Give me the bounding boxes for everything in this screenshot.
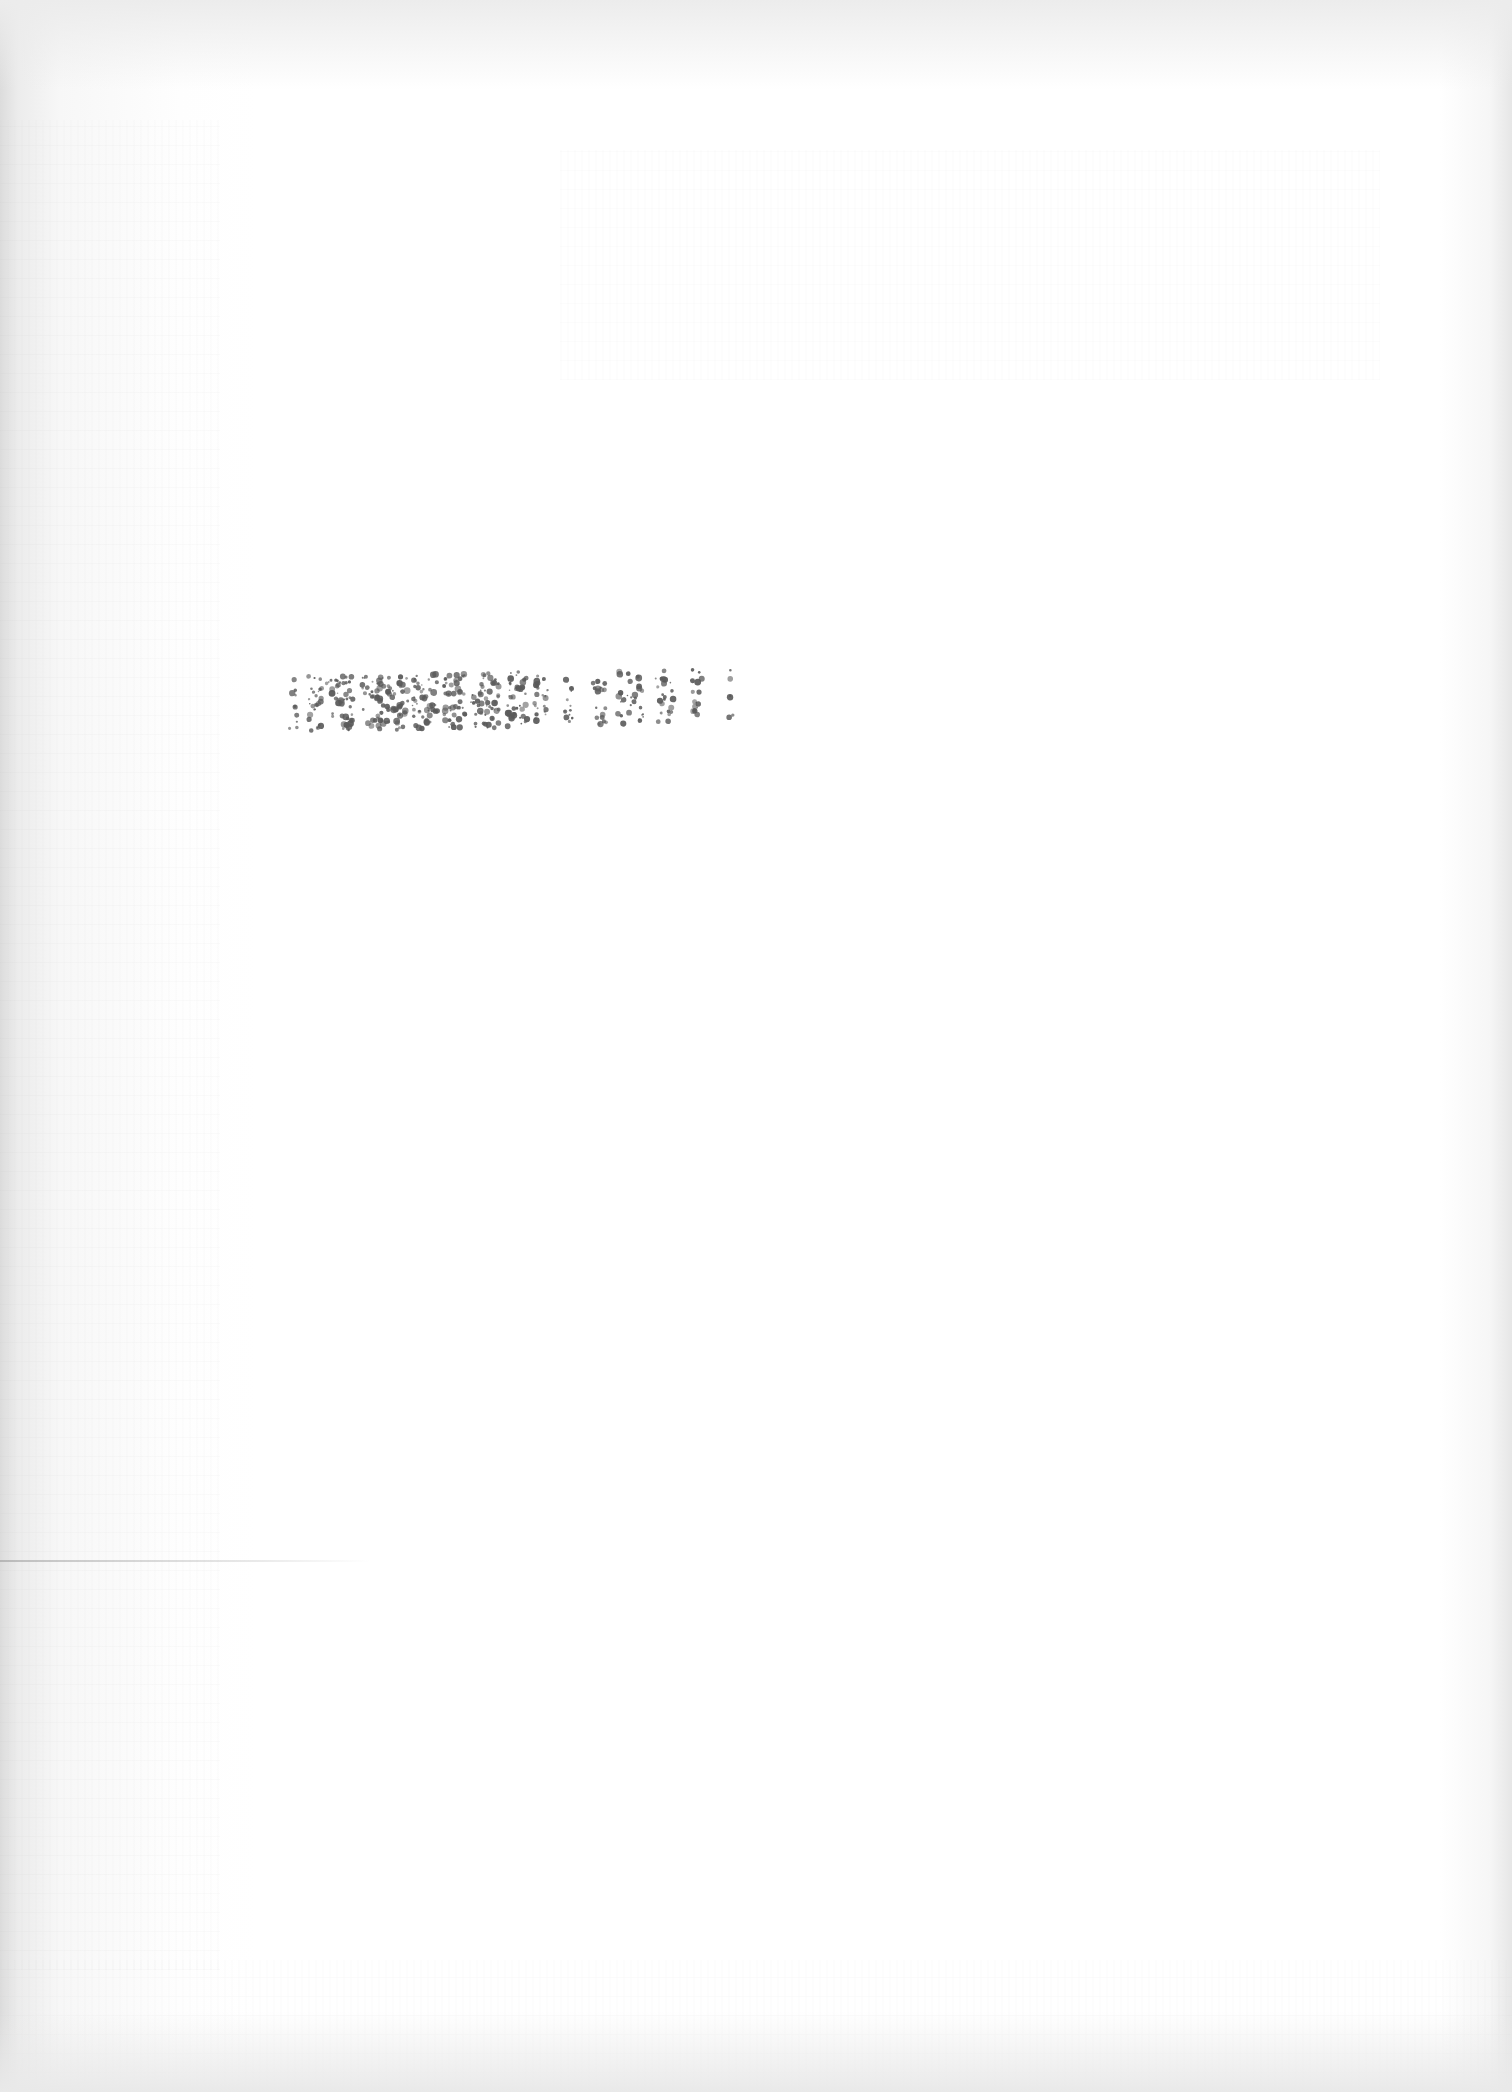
show-through-left-margin (0, 120, 220, 1970)
ink-stamp: [illegible stamp] (284, 657, 745, 739)
show-through-bottom (0, 1960, 1512, 2092)
show-through-top (560, 150, 1380, 380)
fold-line (0, 1560, 370, 1562)
stamp-speckle-icon (284, 657, 745, 739)
scanned-page: [illegible stamp] (0, 0, 1512, 2092)
